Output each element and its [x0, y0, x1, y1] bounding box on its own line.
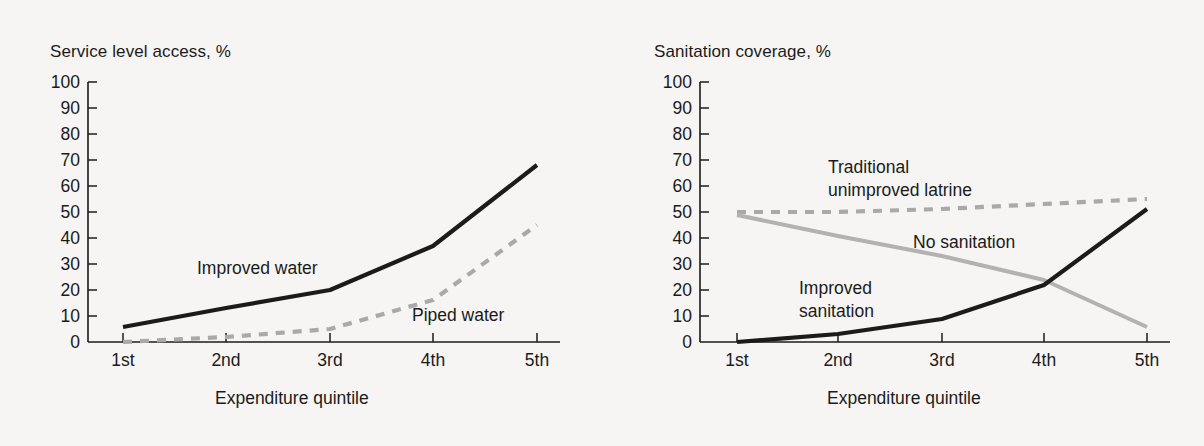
left-xtick-3rd: 3rd	[300, 352, 360, 370]
right-xtick-5th: 5th	[1117, 352, 1177, 370]
right-y-tick-marks	[700, 82, 709, 316]
right-xaxis-label: Expenditure quintile	[827, 388, 981, 409]
left-xtick-2nd: 2nd	[196, 352, 256, 370]
right-plot-area	[600, 0, 1204, 446]
right-annotation-traditional-line1: Traditional	[828, 157, 909, 179]
right-xtick-4th: 4th	[1014, 352, 1074, 370]
right-annotation-no-sanitation: No sanitation	[913, 232, 1015, 254]
right-xtick-2nd: 2nd	[808, 352, 868, 370]
left-y-tick-marks	[88, 82, 97, 316]
left-xtick-5th: 5th	[507, 352, 567, 370]
left-annotation-improved-water: Improved water	[197, 258, 318, 280]
right-xtick-3rd: 3rd	[912, 352, 972, 370]
left-xtick-1st: 1st	[93, 352, 153, 370]
chart-panel-service-level-access: Service level access, % 100 90 80 70 60 …	[0, 0, 600, 446]
left-xtick-4th: 4th	[403, 352, 463, 370]
chart-panel-sanitation-coverage: Sanitation coverage, % 100 90 80 70 60 5…	[600, 0, 1204, 446]
left-annotation-piped-water: Piped water	[412, 305, 504, 327]
left-x-tick-marks	[123, 333, 537, 342]
left-xaxis-label: Expenditure quintile	[215, 388, 369, 409]
left-series-improved-water	[123, 165, 537, 327]
left-plot-area	[0, 0, 600, 446]
two-panel-line-chart-figure: Service level access, % 100 90 80 70 60 …	[0, 0, 1204, 446]
right-xtick-1st: 1st	[707, 352, 767, 370]
right-annotation-improved-line2: sanitation	[799, 301, 874, 323]
right-annotation-traditional-line2: unimproved latrine	[828, 180, 972, 202]
right-annotation-improved-line1: Improved	[799, 278, 872, 300]
